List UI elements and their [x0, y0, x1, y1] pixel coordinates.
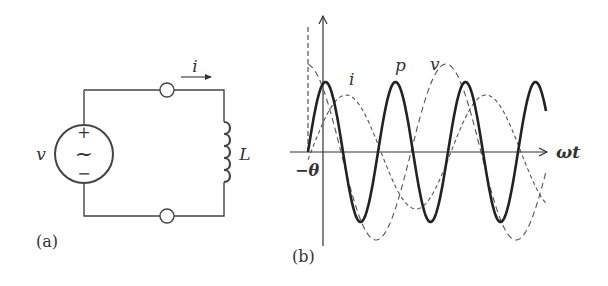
label-p: p: [395, 55, 406, 75]
figure: + ~ − v i L (a) ωt −θ i p v (b): [0, 0, 608, 286]
wire-top: [84, 90, 224, 124]
axis-label-wt: ωt: [556, 142, 580, 162]
current-label: i: [192, 56, 197, 76]
source-tilde: ~: [75, 141, 93, 166]
label-i: i: [349, 69, 354, 89]
label-v: v: [430, 54, 440, 74]
waveform-plot: [290, 16, 547, 246]
panel-label-a: (a): [36, 232, 58, 251]
terminal-top: [160, 83, 174, 97]
terminal-bottom: [160, 209, 174, 223]
inductor-label: L: [238, 144, 250, 164]
source-label: v: [36, 144, 46, 164]
phase-label: −θ: [295, 161, 319, 180]
panel-label-b: (b): [292, 247, 315, 266]
source-minus: −: [77, 164, 90, 183]
source-plus: +: [77, 123, 90, 142]
inductor-coil-icon: [224, 122, 230, 182]
wire-bottom: [84, 182, 224, 216]
